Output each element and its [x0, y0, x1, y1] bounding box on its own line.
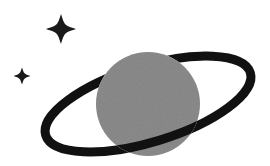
saturn-svg-root: Saturn planet with ring and stars Graysc…: [0, 0, 270, 166]
saturn-illustration: Saturn planet with ring and stars Graysc…: [0, 0, 270, 166]
